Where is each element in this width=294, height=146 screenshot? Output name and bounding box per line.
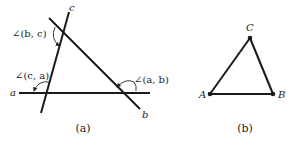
- figure-b: A B C (b): [198, 22, 285, 135]
- angle-c-a-label: ∠(c, a): [15, 70, 49, 81]
- line-c-label: c: [69, 2, 75, 13]
- vertex-B-label: B: [277, 89, 285, 100]
- line-b-label: b: [142, 109, 148, 120]
- vertex-C-dot: [248, 36, 253, 41]
- angle-a-b-label: ∠(a, b): [134, 74, 169, 85]
- edge-A-C: [210, 38, 250, 94]
- figure-a-caption: (a): [75, 122, 90, 135]
- vertex-B-dot: [271, 92, 276, 97]
- line-a-label: a: [10, 87, 16, 98]
- figure-b-caption: (b): [237, 122, 253, 135]
- vertex-A-dot: [208, 92, 213, 97]
- angle-b-c-arc: [53, 27, 59, 46]
- vertex-C-label: C: [246, 22, 254, 33]
- diagram-canvas: a b c ∠(b, c) ∠(c, a) ∠(a, b) (a) A B C …: [0, 0, 294, 146]
- figure-a: a b c ∠(b, c) ∠(c, a) ∠(a, b) (a): [10, 2, 169, 135]
- edge-C-B: [250, 38, 273, 94]
- angle-b-c-label: ∠(b, c): [12, 28, 47, 39]
- vertex-A-label: A: [198, 89, 206, 100]
